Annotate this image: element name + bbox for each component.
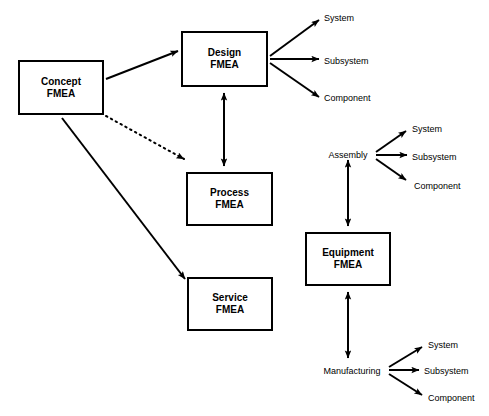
connector-manufacturing-to-component bbox=[389, 374, 422, 395]
node-design-fmea[interactable]: Design FMEA bbox=[181, 31, 268, 87]
label-assembly-subsystem: Subsystem bbox=[412, 152, 457, 162]
node-equipment-fmea[interactable]: Equipment FMEA bbox=[305, 232, 391, 286]
label-design-component: Component bbox=[324, 93, 371, 103]
label-assembly-component: Component bbox=[414, 181, 461, 191]
node-process-fmea[interactable]: Process FMEA bbox=[186, 172, 273, 226]
node-concept-fmea[interactable]: Concept FMEA bbox=[18, 60, 104, 115]
node-equipment-fmea-label: Equipment FMEA bbox=[322, 247, 374, 271]
label-design-system: System bbox=[324, 13, 354, 23]
connector-concept-to-process bbox=[106, 116, 184, 159]
connector-design-to-system bbox=[270, 20, 319, 56]
node-process-fmea-label: Process FMEA bbox=[210, 187, 249, 211]
label-manufacturing-subsystem: Subsystem bbox=[424, 366, 469, 376]
label-manufacturing-component: Component bbox=[428, 393, 475, 403]
label-assembly-system: System bbox=[412, 124, 442, 134]
connector-manufacturing-to-system bbox=[389, 347, 422, 367]
label-manufacturing-system: System bbox=[428, 340, 458, 350]
label-design-subsystem: Subsystem bbox=[324, 56, 369, 66]
node-service-fmea-label: Service FMEA bbox=[212, 292, 248, 316]
label-manufacturing: Manufacturing bbox=[323, 366, 380, 376]
node-service-fmea[interactable]: Service FMEA bbox=[187, 277, 273, 331]
node-concept-fmea-label: Concept FMEA bbox=[41, 76, 81, 100]
connector-design-to-component bbox=[270, 63, 319, 97]
connector-concept-to-service bbox=[62, 118, 185, 279]
connector-concept-to-design bbox=[106, 51, 178, 79]
label-assembly: Assembly bbox=[328, 150, 367, 160]
connector-assembly-to-component bbox=[376, 159, 406, 180]
diagram-canvas: Concept FMEA Design FMEA Process FMEA Se… bbox=[0, 0, 489, 416]
connector-assembly-to-system bbox=[376, 131, 406, 152]
node-design-fmea-label: Design FMEA bbox=[208, 47, 241, 71]
